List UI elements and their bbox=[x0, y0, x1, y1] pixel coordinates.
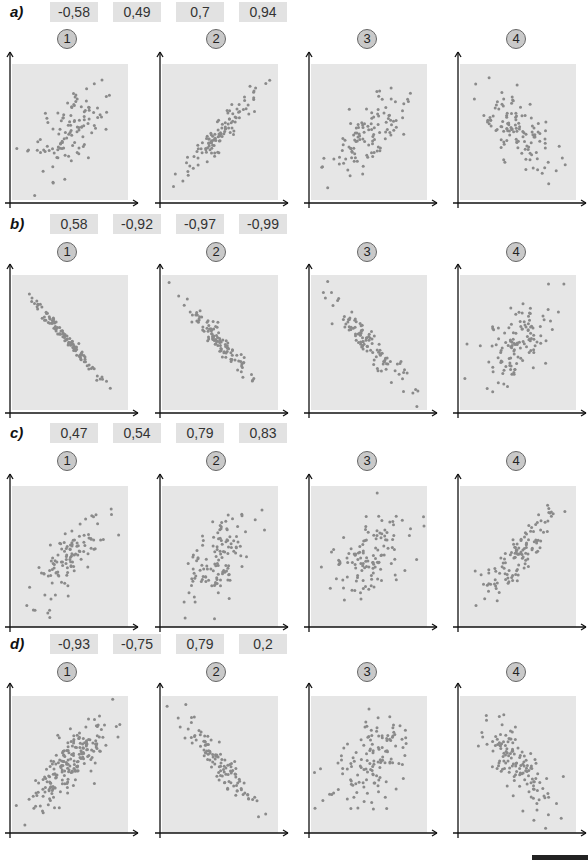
page-corner-bar bbox=[532, 855, 588, 860]
